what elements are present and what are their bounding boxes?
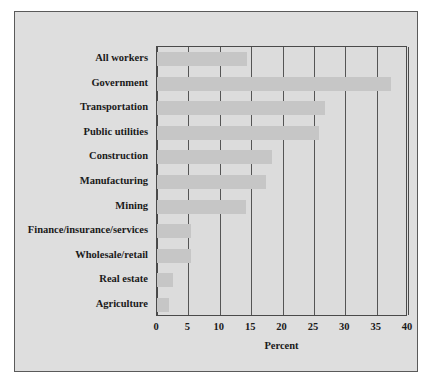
bar-row — [157, 268, 406, 293]
gridline-40 — [408, 47, 409, 315]
category-label: Finance/insurance/services — [28, 224, 148, 236]
bar — [157, 150, 272, 164]
bar-row — [157, 292, 406, 317]
bar — [157, 175, 266, 189]
category-label: Manufacturing — [80, 175, 148, 187]
bar-row — [157, 47, 406, 72]
x-tick-label: 25 — [308, 320, 319, 333]
bar-row — [157, 145, 406, 170]
bar-row — [157, 72, 406, 97]
bar — [157, 224, 191, 238]
category-label: Transportation — [80, 101, 148, 113]
x-tick-label: 10 — [214, 320, 225, 333]
category-label: Agriculture — [96, 298, 148, 310]
bar-row — [157, 96, 406, 121]
bar — [157, 249, 191, 263]
category-label: Mining — [115, 200, 148, 212]
category-label: Government — [91, 77, 148, 89]
x-tick-label: 30 — [339, 320, 350, 333]
bar-row — [157, 219, 406, 244]
bar-row — [157, 194, 406, 219]
bar-row — [157, 121, 406, 146]
bar — [157, 126, 319, 140]
x-tick-label: 5 — [185, 320, 190, 333]
x-tick-label: 35 — [370, 320, 381, 333]
bar-series — [157, 47, 406, 315]
x-tick-label: 20 — [276, 320, 287, 333]
x-tick-label: 40 — [402, 320, 413, 333]
value-axis-tick-labels: 0510152025303540 — [156, 320, 407, 336]
bar-row — [157, 243, 406, 268]
plot-wrapper: All workersGovernmentTransportationPubli… — [15, 12, 417, 371]
bar-row — [157, 170, 406, 195]
category-label: Construction — [89, 150, 148, 162]
x-tick-label: 15 — [245, 320, 256, 333]
category-axis-labels: All workersGovernmentTransportationPubli… — [15, 46, 152, 316]
bar — [157, 200, 246, 214]
bar — [157, 101, 325, 115]
category-label: All workers — [95, 52, 148, 64]
x-tick-label: 0 — [153, 320, 158, 333]
x-axis-title: Percent — [156, 340, 407, 351]
plot-area — [156, 46, 407, 316]
bar — [157, 52, 247, 66]
bar — [157, 273, 173, 287]
chart-figure: All workersGovernmentTransportationPubli… — [14, 11, 418, 372]
category-label: Wholesale/retail — [75, 249, 148, 261]
bar — [157, 77, 391, 91]
category-label: Public utilities — [84, 126, 148, 138]
category-label: Real estate — [99, 273, 148, 285]
bar — [157, 298, 169, 312]
